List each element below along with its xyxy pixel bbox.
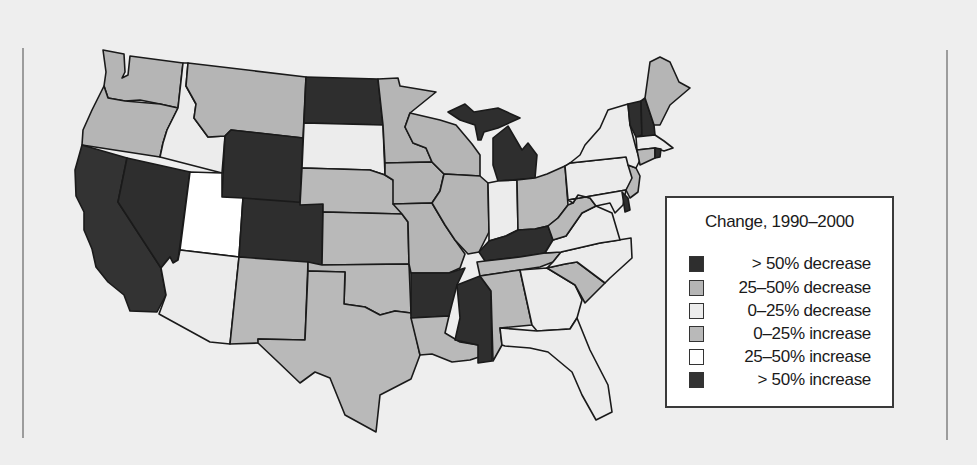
state-north-dakota xyxy=(304,77,383,125)
swatch-icon xyxy=(689,326,704,342)
swatch-icon xyxy=(689,349,704,365)
state-new-mexico xyxy=(230,257,308,344)
state-rhode-island xyxy=(655,148,661,158)
legend-item: 25–50% increase xyxy=(689,347,889,367)
state-arkansas xyxy=(411,268,465,318)
legend-item: > 50% increase xyxy=(689,370,889,390)
state-wyoming xyxy=(222,130,303,205)
swatch-icon xyxy=(689,280,704,296)
legend-item: 0–25% increase xyxy=(689,324,889,344)
state-maine xyxy=(645,57,690,125)
state-arizona xyxy=(159,250,239,344)
state-florida xyxy=(500,318,612,420)
swatch-icon xyxy=(689,256,704,272)
state-connecticut xyxy=(637,148,655,165)
state-montana xyxy=(186,63,306,138)
swatch-icon xyxy=(689,303,704,319)
legend-item: 25–50% decrease xyxy=(689,278,889,298)
legend-item: > 50% decrease xyxy=(689,254,889,274)
legend-item: 0–25% decrease xyxy=(689,301,889,321)
swatch-icon xyxy=(689,372,704,388)
state-south-dakota xyxy=(302,123,385,175)
legend: Change, 1990–2000 > 50% decrease 25–50% … xyxy=(665,196,894,408)
state-colorado xyxy=(239,198,323,265)
legend-title: Change, 1990–2000 xyxy=(667,212,892,232)
state-kansas xyxy=(322,212,409,265)
